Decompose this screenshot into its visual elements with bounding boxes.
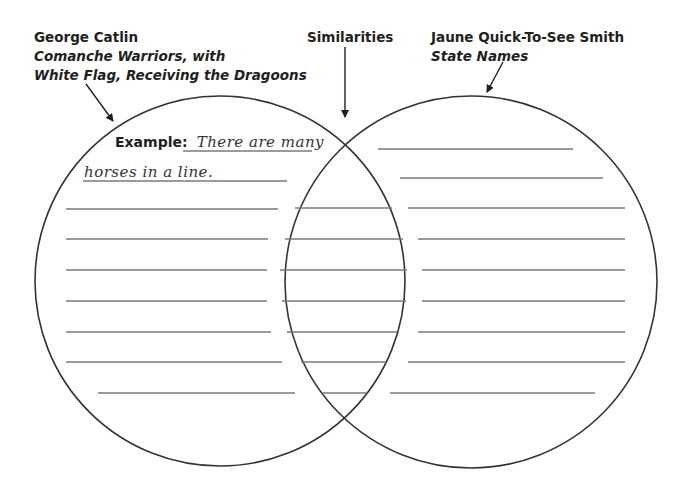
example-text-1: There are many	[197, 133, 324, 151]
right-writing-lines[interactable]	[378, 149, 625, 393]
left-writing-lines[interactable]	[66, 209, 295, 393]
example-label: Example:	[115, 134, 188, 150]
right-arrow-icon	[487, 62, 503, 92]
left-arrow-icon	[86, 84, 113, 121]
example-text-2: horses in a line.	[84, 163, 213, 181]
example-line-2-text: horses in a line.	[84, 162, 213, 181]
venn-diagram	[0, 0, 684, 498]
middle-writing-lines[interactable]	[280, 208, 407, 393]
right-circle	[285, 96, 657, 468]
example-line-1-text: Example: There are many	[115, 132, 324, 151]
